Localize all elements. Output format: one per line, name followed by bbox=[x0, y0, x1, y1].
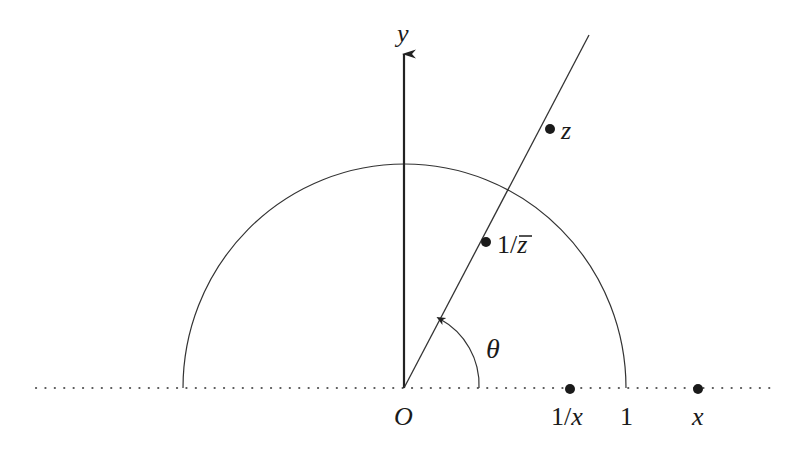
y-axis-label: y bbox=[394, 19, 409, 48]
diagram-canvas: y z 1/z θ O 1/x 1 x bbox=[0, 0, 802, 450]
x-label: x bbox=[691, 402, 704, 431]
angle-theta-arc bbox=[440, 319, 479, 388]
inverse-conjugate-z-label: 1/z bbox=[497, 230, 527, 259]
point-inverse-conjugate-z bbox=[481, 237, 491, 247]
point-inverse-x bbox=[565, 384, 575, 394]
origin-label: O bbox=[394, 402, 413, 431]
theta-label: θ bbox=[486, 333, 500, 364]
one-label: 1 bbox=[620, 402, 633, 431]
point-z bbox=[545, 124, 555, 134]
point-x bbox=[693, 384, 703, 394]
z-label: z bbox=[560, 116, 571, 145]
inverse-x-label: 1/x bbox=[551, 402, 583, 431]
